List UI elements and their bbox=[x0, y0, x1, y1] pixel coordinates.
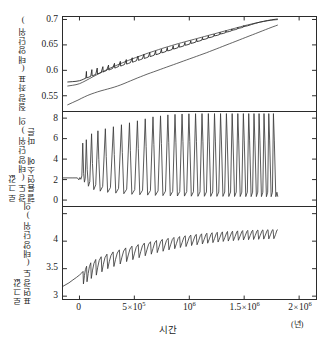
xtick-label-0: 0 bbox=[76, 303, 81, 313]
surface-luminosity-plot bbox=[63, 207, 316, 299]
xtick-marks-top-edge bbox=[79, 17, 299, 20]
xtick-label-0-text: 0 bbox=[76, 302, 81, 312]
ytick-label-bot-1: 3.5 bbox=[20, 263, 58, 273]
mass-coordinate-plot bbox=[63, 17, 316, 111]
series-helium-burning-luminosity bbox=[63, 114, 278, 197]
ytick-label-mid-4: 0 bbox=[20, 196, 58, 206]
xtick-label-1-exp: 5 bbox=[142, 300, 145, 307]
xtick-label-2-exp: 6 bbox=[192, 300, 195, 307]
series-surface-mass bbox=[67, 19, 277, 82]
xtick-label-4: 2×106 bbox=[288, 303, 311, 313]
ytick-label-top-2: 0.6 bbox=[20, 66, 58, 76]
panel-helium-luminosity bbox=[62, 111, 317, 206]
ytick-label-mid-0: 8 bbox=[20, 114, 58, 124]
xtick-label-3-base: 10 bbox=[247, 302, 257, 312]
helium-luminosity-plot bbox=[63, 112, 316, 206]
xtick-label-2-base: 10 bbox=[183, 302, 193, 312]
xtick-label-1-base: 10 bbox=[133, 302, 143, 312]
series-surface-luminosity bbox=[63, 230, 278, 287]
ytick-label-mid-1: 6 bbox=[20, 134, 58, 144]
xtick-label-1: 5×105 bbox=[122, 303, 145, 313]
xtick-label-3-exp: 6 bbox=[257, 300, 260, 307]
xtick-label-3: 1.5×106 bbox=[229, 303, 259, 313]
ylabel-surface-luminosity-line2: 로그값 bbox=[14, 201, 23, 305]
ytick-label-bot-0: 4 bbox=[20, 235, 58, 245]
ytick-label-top-1: 0.65 bbox=[20, 40, 58, 50]
xtick-label-4-exp: 6 bbox=[308, 300, 311, 307]
ytick-label-bot-2: 3 bbox=[20, 291, 58, 301]
ytick-label-mid-3: 2 bbox=[20, 176, 58, 186]
figure-container: 0.7 0.65 0.6 0.55 질량좌표(태양단위) 8 6 4 2 0 bbox=[0, 0, 336, 344]
xtick-marks-bottom-inner bbox=[79, 296, 299, 299]
ytick-label-top-3: 0.55 bbox=[20, 92, 58, 102]
xtick-label-3-mantissa: 1.5 bbox=[229, 302, 241, 312]
ytick-marks-top bbox=[63, 19, 316, 95]
ylabel-surface-luminosity-line1: 표면광도(태양단위)의 bbox=[24, 201, 33, 305]
series-hydrogen-shell-mass bbox=[67, 20, 277, 86]
ytick-label-mid-2: 4 bbox=[20, 155, 58, 165]
xaxis-title: 시간 bbox=[0, 322, 336, 336]
panel-surface-luminosity bbox=[62, 206, 317, 300]
ylabel-helium-luminosity-line3: 로그값 bbox=[9, 116, 18, 202]
ylabel-surface-luminosity: 표면광도(태양단위)의 로그값 bbox=[6, 206, 40, 300]
xtick-label-2: 106 bbox=[183, 303, 196, 313]
xtick-label-4-base: 10 bbox=[299, 302, 309, 312]
ytick-marks-bot bbox=[63, 214, 316, 297]
series-helium-shell-mass bbox=[67, 25, 277, 105]
panel-mass-coordinate bbox=[62, 16, 317, 111]
ytick-label-top-0: 0.7 bbox=[20, 15, 58, 25]
